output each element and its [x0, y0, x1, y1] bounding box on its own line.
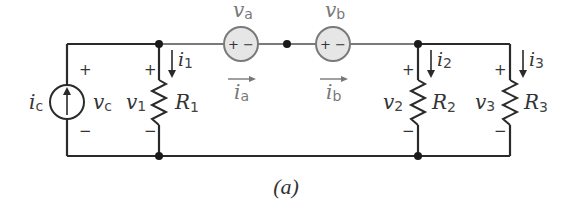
voltage-source-a-label: va — [233, 0, 253, 22]
resistor-r3-symbol — [503, 80, 517, 125]
current-a-label: ia — [234, 80, 249, 104]
r3-current-label: i3 — [529, 48, 544, 71]
voltage-source-a-polarity: + − — [228, 37, 254, 52]
r1-plus: + — [144, 61, 157, 79]
voltage-source-b-label: vb — [325, 0, 345, 22]
current-arrows — [168, 50, 527, 82]
current-b-label: ib — [326, 80, 341, 104]
source-current-label: ic — [29, 90, 43, 114]
r1-voltage-label: v1 — [126, 90, 146, 114]
r2-current-label: i2 — [437, 48, 452, 71]
r2-name-label: R2 — [431, 90, 456, 115]
r1-current-label: i1 — [178, 48, 193, 71]
r1-name-label: R1 — [174, 90, 199, 115]
source-plus: + — [79, 61, 92, 79]
figure-caption: (a) — [273, 174, 299, 199]
r3-name-label: R3 — [523, 90, 548, 115]
r3-minus: − — [494, 122, 507, 140]
source-voltage-label: vc — [93, 90, 112, 114]
r3-plus: + — [494, 61, 507, 79]
circuit-diagram: + − + − + − ic vc va vb ia ib — [0, 0, 570, 217]
r2-voltage-label: v2 — [383, 90, 403, 114]
r2-minus: − — [402, 122, 415, 140]
r2-plus: + — [402, 61, 415, 79]
source-minus: − — [79, 122, 92, 140]
current-source-symbol — [50, 85, 84, 119]
r3-voltage-label: v3 — [475, 90, 495, 114]
voltage-source-b-polarity: + − — [320, 37, 346, 52]
resistor-r1-symbol — [152, 80, 166, 125]
r1-minus: − — [144, 122, 157, 140]
resistor-r2-symbol — [411, 80, 425, 125]
